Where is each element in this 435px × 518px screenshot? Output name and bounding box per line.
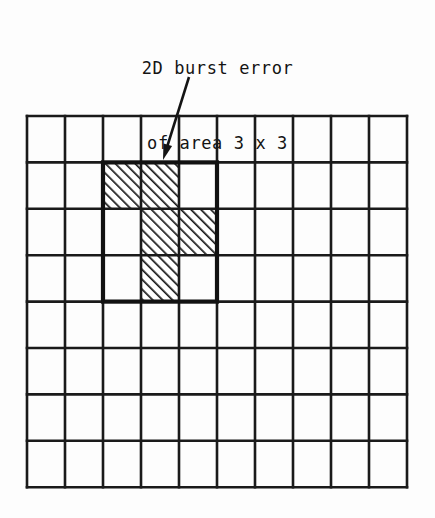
error-cell	[103, 162, 141, 208]
error-cell	[179, 209, 217, 255]
grid-layer	[0, 0, 435, 518]
grid-svg	[0, 0, 435, 518]
error-cell	[141, 255, 179, 301]
figure-2d-burst-error: 2D burst error of area 3 x 3	[0, 0, 435, 518]
error-cell	[141, 209, 179, 255]
error-cell	[141, 162, 179, 208]
hatched-error-cells	[103, 162, 217, 301]
